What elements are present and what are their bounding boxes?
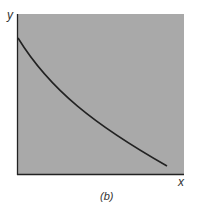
chart [0, 0, 198, 212]
figure-caption: (b) [100, 190, 113, 202]
plot-area [17, 14, 184, 175]
y-axis-label: y [7, 8, 13, 22]
x-axis-label: x [178, 175, 184, 189]
